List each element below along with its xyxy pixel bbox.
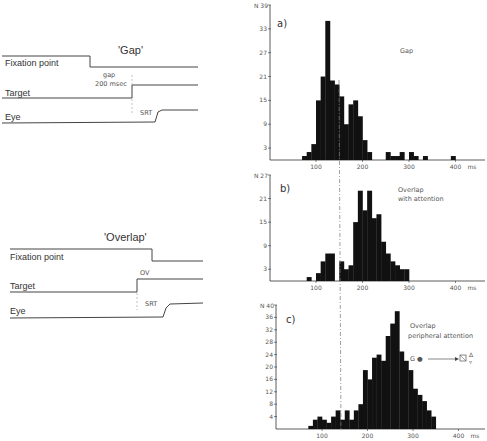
overlap-timing-diagram: 'Overlap' Fixation point Target Eye OV S…: [10, 231, 203, 318]
panel-c-title-1: Overlap: [410, 322, 436, 330]
histogram-bar: [330, 81, 335, 160]
histogram-bar: [381, 242, 386, 281]
x-tick-label: 400: [450, 163, 462, 170]
x-axis-unit: ms: [468, 284, 477, 291]
gap-timing-diagram: 'Gap' Fixation point Target Eye gap 200 …: [2, 44, 198, 123]
histogram-bar: [302, 156, 307, 160]
svg-text:Δ: Δ: [469, 351, 474, 358]
gap-title: 'Gap': [118, 44, 143, 56]
y-tick-label: 21: [259, 195, 267, 202]
y-tick-label: 9: [263, 242, 267, 249]
histogram-bar: [325, 21, 330, 160]
gap-fixation-label: Fixation point: [5, 58, 59, 68]
gap-eye-label: Eye: [5, 112, 21, 122]
y-tick-label: 9: [263, 120, 267, 127]
gap-srt-label: SRT: [140, 109, 152, 117]
histogram-bar: [358, 191, 363, 281]
histogram-bar: [344, 124, 349, 160]
histogram-bar: [349, 420, 354, 429]
histogram-bar: [400, 152, 405, 160]
y-tick-label: 12: [265, 388, 273, 395]
panel-c-legend: G ● Δ ▿: [410, 351, 474, 365]
histogram-bar: [349, 265, 354, 281]
histogram-bar: [368, 379, 373, 429]
x-tick-label: 100: [316, 432, 328, 439]
overlap-title: 'Overlap': [104, 231, 147, 243]
y-tick-label: 20: [265, 363, 273, 370]
histogram-bar: [390, 324, 395, 429]
histogram-bar: [386, 152, 391, 160]
histogram-bar: [325, 254, 330, 281]
histogram-bar: [409, 152, 414, 160]
histogram-bar: [408, 370, 413, 429]
x-tick-label: 100: [310, 284, 322, 291]
histogram-bar: [372, 218, 377, 281]
panel-b-label: b): [280, 183, 290, 194]
histogram-bar: [423, 156, 428, 160]
histogram-bar: [316, 100, 321, 160]
histogram-bar: [372, 358, 377, 429]
x-tick-label: 100: [310, 163, 322, 170]
histogram-bar: [414, 156, 419, 160]
y-axis-max-label: N 39: [254, 2, 268, 9]
histogram-bar: [321, 261, 326, 281]
x-axis-unit: ms: [468, 163, 477, 170]
overlap-fixation-label: Fixation point: [10, 252, 64, 262]
y-axis-max-label: N 40: [260, 302, 274, 309]
histogram-bar: [404, 269, 409, 281]
histogram-bar: [307, 277, 312, 281]
histogram-bar: [386, 336, 391, 429]
histogram-bar: [316, 273, 321, 281]
histogram-a: 3915212733N 39100200300400ms: [254, 2, 485, 170]
overlap-ov-label: OV: [140, 269, 150, 277]
panel-a-label: a): [277, 18, 287, 29]
histogram-bar: [349, 104, 354, 160]
histogram-bar: [353, 100, 358, 160]
x-tick-label: 200: [357, 163, 369, 170]
histogram-bar: [395, 265, 400, 281]
y-tick-label: 4: [269, 413, 273, 420]
histogram-bar: [336, 410, 341, 429]
histogram-bar: [386, 254, 391, 281]
histogram-bar: [395, 311, 400, 429]
histogram-bar: [322, 420, 327, 429]
histogram-bar: [339, 96, 344, 160]
histogram-bar: [395, 156, 400, 160]
panel-c-label: c): [286, 314, 295, 325]
x-tick-label: 300: [403, 284, 415, 291]
y-tick-label: 8: [269, 400, 273, 407]
histogram-bar: [367, 191, 372, 281]
overlap-eye-label: Eye: [10, 306, 26, 316]
gap-duration: 200 msec: [95, 80, 127, 88]
histogram-bar: [367, 152, 372, 160]
overlap-srt-label: SRT: [145, 300, 157, 308]
histogram-bar: [354, 410, 359, 429]
x-axis-unit: ms: [471, 432, 480, 439]
overlap-target-label: Target: [10, 281, 36, 291]
histogram-bar: [400, 269, 405, 281]
histogram-bar: [330, 254, 335, 281]
x-tick-label: 400: [450, 284, 462, 291]
histogram-bar: [331, 417, 336, 429]
histogram-bar: [345, 410, 350, 429]
y-tick-label: 36: [265, 313, 273, 320]
y-tick-label: 15: [259, 218, 267, 225]
y-tick-label: 28: [265, 338, 273, 345]
histogram-bar: [358, 116, 363, 160]
y-tick-label: 27: [259, 49, 267, 56]
x-tick-label: 400: [453, 432, 465, 439]
histogram-bar: [390, 261, 395, 281]
gap-label: gap: [103, 71, 115, 79]
x-tick-label: 200: [362, 432, 374, 439]
histogram-bar: [390, 156, 395, 160]
y-tick-label: 15: [259, 96, 267, 103]
histogram-bar: [308, 426, 313, 429]
y-tick-label: 16: [265, 375, 273, 382]
x-tick-label: 200: [357, 284, 369, 291]
histogram-bar: [307, 152, 312, 160]
histogram-bar: [344, 269, 349, 281]
histogram-bar: [377, 355, 382, 429]
svg-text:▿: ▿: [469, 358, 472, 365]
y-tick-label: 3: [263, 265, 267, 272]
y-tick-label: 32: [265, 326, 273, 333]
